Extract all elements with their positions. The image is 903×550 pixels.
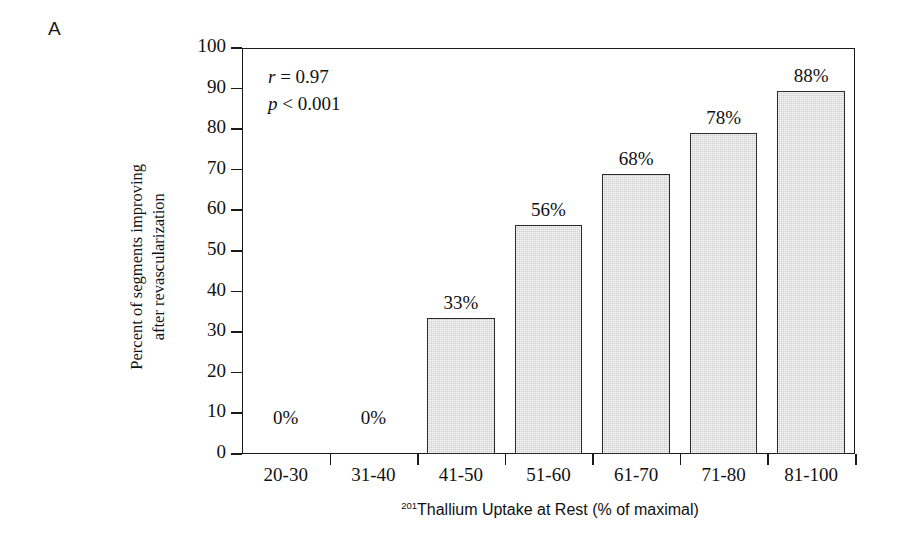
y-axis-title-line2: after revascularization [148, 57, 170, 477]
y-axis-tick-label: 30 [207, 319, 226, 341]
y-axis-tick-mark [231, 372, 242, 374]
bar [777, 91, 844, 454]
y-axis-tick-label: 20 [207, 360, 226, 382]
y-axis-tick-mark [231, 169, 242, 171]
r-value: = 0.97 [275, 66, 328, 87]
y-axis-tick-mark [231, 250, 242, 252]
y-axis-tick-mark [231, 209, 242, 211]
y-axis-tick-mark [231, 88, 242, 90]
y-axis-tick-label: 70 [207, 157, 226, 179]
bar [427, 318, 494, 454]
y-axis-tick-label: 100 [198, 35, 227, 57]
y-axis-tick-label: 50 [207, 238, 226, 260]
bar [690, 133, 757, 454]
bar-value-label: 78% [680, 107, 768, 129]
p-value: < 0.001 [278, 93, 341, 114]
y-axis-tick-label: 90 [207, 76, 226, 98]
x-axis-tick-mark [855, 454, 857, 465]
x-axis-title: 201Thallium Uptake at Rest (% of maximal… [243, 500, 857, 519]
x-axis-tick-label: 71-80 [680, 464, 768, 486]
y-axis-tick-label: 60 [207, 197, 226, 219]
bar-value-label: 0% [242, 407, 330, 429]
y-axis-tick-mark [231, 47, 242, 49]
y-axis-tick-label: 40 [207, 279, 226, 301]
y-axis-tick-label: 10 [207, 400, 226, 422]
y-axis-tick-mark [231, 453, 242, 455]
bar-value-label: 88% [767, 65, 855, 87]
correlation-annotation: r = 0.97 [268, 64, 340, 91]
x-axis-tick-label: 61-70 [592, 464, 680, 486]
y-axis-tick-mark [231, 412, 242, 414]
panel-label: A [48, 18, 61, 40]
p-symbol: p [268, 93, 278, 114]
y-axis-tick-label: 0 [217, 441, 227, 463]
x-axis-tick-label: 51-60 [505, 464, 593, 486]
x-axis-tick-label: 31-40 [330, 464, 418, 486]
y-axis-tick-mark [231, 291, 242, 293]
y-axis-tick-mark [231, 128, 242, 130]
x-axis-tick-label: 81-100 [767, 464, 855, 486]
y-axis-tick-mark [231, 331, 242, 333]
bar-value-label: 68% [592, 148, 680, 170]
bar [602, 174, 669, 454]
y-axis-title: Percent of segments improving after reva… [126, 57, 170, 477]
bar-value-label: 33% [417, 292, 505, 314]
bar [515, 225, 582, 454]
x-axis-tick-label: 20-30 [242, 464, 330, 486]
bar-value-label: 0% [330, 407, 418, 429]
y-axis-title-line1: Percent of segments improving [126, 57, 148, 477]
x-axis-tick-label: 41-50 [417, 464, 505, 486]
pvalue-annotation: p < 0.001 [268, 91, 340, 118]
statistics-annotation: r = 0.97 p < 0.001 [268, 64, 340, 118]
x-axis-title-text: Thallium Uptake at Rest (% of maximal) [417, 501, 699, 518]
y-axis-tick-label: 80 [207, 116, 226, 138]
x-axis-title-superscript: 201 [401, 500, 417, 511]
bar-value-label: 56% [505, 199, 593, 221]
figure-panel-a: A Percent of segments improving after re… [0, 0, 903, 550]
